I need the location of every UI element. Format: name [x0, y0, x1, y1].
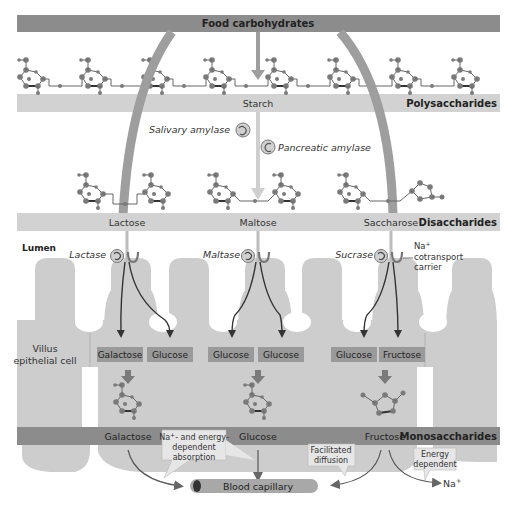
- maltase-label: Maltase: [203, 249, 240, 260]
- svg-text:Na+- and energy-: Na+- and energy-: [159, 431, 229, 442]
- sugar-ring: [207, 172, 236, 210]
- lumen-gap: [75, 312, 103, 332]
- monosaccharide-box: Galactose: [97, 347, 143, 362]
- sugar-ring: [451, 57, 480, 95]
- sugar-ring: [142, 172, 171, 210]
- cell-label-line1: Villus: [32, 343, 57, 354]
- monosaccharide-box-label: Galactose: [98, 350, 143, 360]
- monosaccharide-box: Fructose: [379, 347, 425, 362]
- intercellular-space: [417, 367, 433, 427]
- monosaccharide-box-label: Glucose: [213, 350, 249, 360]
- callout-energy-dependent: Energy dependent: [413, 448, 456, 480]
- sucrase-label: Sucrase: [335, 249, 373, 260]
- carrier-label-line1: Na+: [414, 240, 431, 251]
- enzyme-icon: [261, 140, 275, 154]
- carbohydrate-digestion-diagram: Food carbohydrates Starch Polysaccharide…: [0, 0, 516, 506]
- mono-galactose: Galactose: [104, 431, 151, 442]
- sugar-ring: [17, 57, 46, 95]
- monosaccharide-box-label: Fructose: [383, 350, 422, 360]
- enzyme-icon: [375, 250, 388, 263]
- svg-text:dependent: dependent: [413, 460, 456, 469]
- sugar-ring: [337, 172, 366, 210]
- cell-label-line2: epithelial cell: [13, 355, 76, 366]
- lumen-gap: [149, 312, 177, 332]
- starch-molecule-chain: [17, 57, 480, 95]
- saccharose-pathway-arrow: [340, 32, 393, 215]
- sugar-ring: [389, 57, 418, 95]
- title: Food carbohydrates: [202, 18, 314, 29]
- villus-bump: [446, 258, 497, 330]
- lactase-label: Lactase: [69, 249, 106, 260]
- monosaccharide-box: Glucose: [331, 347, 377, 362]
- intercellular-space: [82, 367, 98, 427]
- disaccharide-maltose: Maltose: [240, 217, 277, 228]
- sugar-ring: [77, 172, 106, 210]
- svg-text:dependent: dependent: [172, 443, 215, 452]
- sugar-ring: [265, 57, 294, 95]
- monosaccharide-box-label: Glucose: [152, 350, 188, 360]
- svg-text:Energy: Energy: [421, 450, 449, 459]
- carrier-label-line3: carrier: [414, 262, 442, 272]
- disaccharides-category: Disaccharides: [419, 217, 497, 228]
- mono-glucose: Glucose: [239, 431, 277, 442]
- blood-capillary: Blood capillary: [190, 479, 318, 493]
- monosaccharide-box-label: Glucose: [263, 350, 299, 360]
- lumen-gap: [419, 312, 447, 332]
- sugar-ring: [409, 180, 444, 202]
- disaccharide-saccharose: Saccharose: [364, 217, 419, 228]
- enzyme-icon: [242, 250, 255, 263]
- svg-text:diffusion: diffusion: [314, 456, 348, 465]
- monosaccharide-box: Glucose: [208, 347, 254, 362]
- lumen-gap: [283, 312, 311, 332]
- sugar-ring: [203, 57, 232, 95]
- pancreatic-amylase-label: Pancreatic amylase: [278, 142, 371, 153]
- villus-bump: [35, 258, 75, 330]
- starch-label: Starch: [243, 98, 274, 109]
- polysaccharides-category: Polysaccharides: [406, 98, 497, 109]
- na-output-label: Na+: [443, 477, 461, 489]
- enzyme-icon: [236, 123, 250, 137]
- monosaccharide-box: Glucose: [258, 347, 304, 362]
- enzyme-icon: [111, 250, 124, 263]
- svg-text:Blood capillary: Blood capillary: [223, 481, 294, 492]
- svg-text:absorption: absorption: [173, 453, 216, 462]
- monosaccharide-box-label: Glucose: [336, 350, 372, 360]
- lumen-label: Lumen: [22, 243, 56, 253]
- monosaccharides-category: Monosaccharides: [400, 431, 498, 442]
- svg-text:Facilitated: Facilitated: [310, 446, 351, 455]
- monosaccharide-box: Glucose: [147, 347, 193, 362]
- carrier-label-line2: cotransport: [414, 252, 464, 262]
- sugar-ring: [272, 172, 301, 210]
- sugar-ring: [327, 57, 356, 95]
- disaccharide-lactose: Lactose: [109, 217, 146, 228]
- salivary-amylase-label: Salivary amylase: [149, 124, 230, 135]
- sugar-ring: [79, 57, 108, 95]
